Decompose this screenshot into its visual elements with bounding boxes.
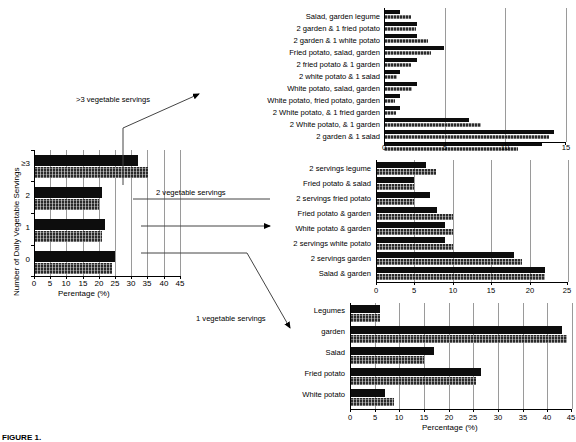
three-plus-x-tick-label: 5 (435, 144, 455, 152)
three-plus-category-label: White potato, fried potato, garden (228, 97, 380, 105)
y-axis (384, 8, 385, 142)
one-serving-category-label: garden (262, 328, 345, 336)
bar-hatched (384, 15, 411, 19)
y-tick (31, 181, 34, 182)
bar-hatched (384, 111, 396, 115)
two-servings-x-tick-label: 5 (404, 287, 424, 295)
x-tick (424, 409, 425, 412)
y-axis (34, 150, 35, 276)
gridline (449, 303, 450, 409)
bar-dark (376, 222, 445, 228)
one-serving-x-tick-label: 45 (561, 414, 576, 422)
gridline (530, 160, 531, 282)
three-plus-category-label: 2 white potato & 1 salad (228, 73, 380, 81)
one-serving-plot-area (350, 303, 572, 409)
gridline (180, 150, 181, 276)
figure-caption: FIGURE 1. (2, 434, 41, 442)
bar-hatched (376, 169, 436, 175)
one-serving-x-tick-label: 40 (537, 414, 557, 422)
bar-dark (384, 94, 400, 98)
bar-dark (350, 326, 562, 334)
x-axis (384, 142, 566, 143)
bar-hatched (34, 199, 99, 210)
three-plus-x-tick-label: 10 (495, 144, 515, 152)
bar-hatched (350, 335, 567, 343)
bar-dark (384, 70, 400, 74)
two-servings-category-label: Fried potato & salad (246, 180, 371, 188)
bar-hatched (34, 167, 148, 178)
annotation-one-serving: 1 vegetable servings (196, 315, 266, 323)
two-servings-x-tick-label: 10 (443, 287, 463, 295)
x-tick (453, 282, 454, 285)
x-tick (414, 282, 415, 285)
bar-hatched (350, 314, 380, 322)
x-tick (491, 282, 492, 285)
bar-hatched (376, 229, 453, 235)
two-servings-category-label: 2 servings garden (246, 255, 371, 263)
x-tick (449, 409, 450, 412)
bar-hatched (376, 259, 522, 265)
bar-hatched (384, 99, 395, 103)
bar-dark (384, 34, 417, 38)
one-serving-x-tick-label: 5 (365, 414, 385, 422)
bar-hatched (384, 63, 411, 67)
bar-dark (384, 82, 417, 86)
bar-hatched (376, 184, 414, 190)
bar-dark (376, 267, 545, 273)
two-servings-category-label: White potato & garden (246, 225, 371, 233)
y-tick (31, 150, 34, 151)
two-servings-x-tick-label: 15 (481, 287, 501, 295)
main-category-label: ≥3 (4, 160, 30, 168)
annotation-gt3-servings: >3 vegetable servings (76, 96, 150, 104)
two-servings-category-label: Fried potato & garden (246, 210, 371, 218)
x-tick (350, 409, 351, 412)
bar-dark (384, 130, 554, 134)
bar-dark (376, 207, 437, 213)
bar-dark (350, 368, 481, 376)
bar-hatched (384, 51, 431, 55)
bar-dark (384, 10, 400, 14)
one-serving-category-label: Legumes (262, 307, 345, 315)
chart-panel-two-servings: 2 servings legume Fried potato & salad 2… (246, 160, 576, 295)
three-plus-plot-area (384, 8, 566, 142)
bar-dark (384, 22, 417, 26)
bar-dark (384, 106, 400, 110)
bar-hatched (384, 87, 412, 91)
gridline (164, 150, 165, 276)
main-plot-area (34, 150, 180, 276)
one-serving-category-label: Salad (262, 349, 345, 357)
three-plus-category-label: 2 garden & 1 salad (228, 133, 380, 141)
one-serving-x-axis-title: Percentage (%) (422, 424, 478, 432)
gridline (505, 8, 506, 142)
bar-hatched (376, 274, 545, 280)
two-servings-category-label: Salad & garden (246, 270, 371, 278)
bar-hatched (384, 27, 416, 31)
one-serving-x-tick-label: 20 (439, 414, 459, 422)
main-category-label: 1 (4, 224, 30, 232)
bar-dark (34, 251, 115, 262)
x-tick (375, 409, 376, 412)
x-tick (571, 409, 572, 412)
gridline (473, 303, 474, 409)
x-tick (547, 409, 548, 412)
x-tick (473, 409, 474, 412)
gridline (547, 303, 548, 409)
chart-panel-main: Number of Daily Vegetable Servings ≥3 2 … (0, 148, 200, 298)
bar-hatched (376, 214, 453, 220)
two-servings-plot-area (376, 160, 568, 282)
two-servings-x-tick-label: 20 (520, 287, 540, 295)
x-tick (530, 282, 531, 285)
bar-hatched (384, 39, 428, 43)
gridline (498, 303, 499, 409)
x-tick (376, 282, 377, 285)
three-plus-category-label: White potato, salad, garden (228, 85, 380, 93)
one-serving-x-tick-label: 15 (414, 414, 434, 422)
one-serving-x-tick-label: 25 (463, 414, 483, 422)
x-axis (350, 409, 572, 410)
main-category-label: 0 (4, 256, 30, 264)
bar-dark (350, 389, 385, 397)
annotation-two-servings: 2 vegetable servings (156, 189, 226, 197)
bar-hatched (350, 398, 394, 406)
gridline (566, 8, 567, 142)
y-tick (31, 245, 34, 246)
